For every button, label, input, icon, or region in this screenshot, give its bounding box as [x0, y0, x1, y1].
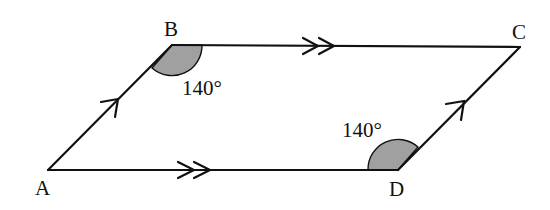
vertex-label-c: C	[512, 20, 526, 44]
vertex-label-b: B	[164, 17, 178, 41]
side-ab	[48, 45, 172, 170]
side-bc	[172, 45, 520, 47]
angle-b-marker	[152, 45, 202, 76]
angle-label-b: 140°	[182, 76, 222, 100]
vertex-label-a: A	[35, 176, 51, 200]
vertex-label-d: D	[389, 177, 404, 201]
side-cd	[398, 47, 520, 170]
angle-d-marker	[368, 139, 418, 170]
angle-label-d: 140°	[342, 118, 382, 142]
parallelogram-diagram: A B C D 140° 140°	[0, 0, 550, 210]
parallel-arrow-dc-icon	[446, 101, 464, 120]
